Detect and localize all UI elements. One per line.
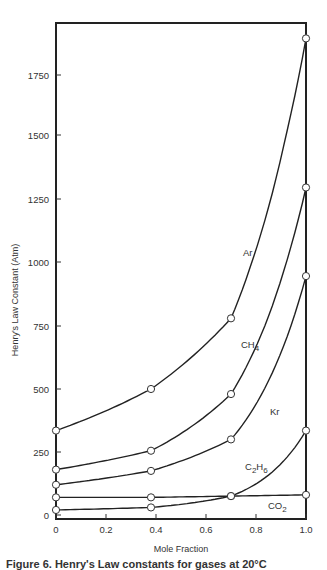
y-tick-label: 500 (33, 384, 49, 395)
curve-ch4 (56, 188, 306, 470)
data-point-ar (52, 427, 59, 434)
series-points (52, 35, 309, 514)
series-labels: ArCH4KrC2H6CO2 (241, 247, 287, 514)
x-axis-title: Mole Fraction (154, 544, 209, 554)
data-point-kr (52, 481, 59, 488)
curve-ar (56, 38, 306, 430)
x-tick-label: 0.8 (249, 524, 262, 535)
data-point-ch4 (302, 184, 309, 191)
curve-kr (56, 276, 306, 485)
data-point-co2 (227, 493, 234, 500)
data-point-c2h6 (302, 427, 309, 434)
y-tick-label: 0 (44, 510, 49, 521)
y-tick-label: 1250 (28, 194, 49, 205)
x-axis-ticks: 00.20.40.60.81.0 (53, 514, 312, 535)
data-point-co2 (302, 491, 309, 498)
data-point-kr (147, 467, 154, 474)
series-label-kr: Kr (270, 406, 280, 417)
series-curves (56, 38, 306, 510)
data-point-co2 (147, 494, 154, 501)
series-label-ar: Ar (243, 247, 253, 258)
series-label-co2: CO2 (268, 500, 287, 514)
x-tick-label: 0.6 (199, 524, 212, 535)
x-tick-label: 0.2 (99, 524, 112, 535)
y-tick-label: 1000 (28, 257, 49, 268)
y-tick-label: 1750 (28, 70, 49, 81)
data-point-ar (302, 35, 309, 42)
x-tick-label: 0.4 (149, 524, 162, 535)
data-point-ch4 (227, 390, 234, 397)
data-point-c2h6 (52, 506, 59, 513)
curve-co2 (56, 495, 306, 498)
plot-border (56, 23, 306, 519)
y-tick-label: 250 (33, 447, 49, 458)
data-point-ar (147, 385, 154, 392)
y-tick-label: 1500 (28, 130, 49, 141)
data-point-ch4 (52, 466, 59, 473)
data-point-co2 (52, 494, 59, 501)
figure-caption: Figure 6. Henry's Law constants for gase… (6, 558, 267, 570)
series-label-c2h6: C2H6 (245, 461, 268, 475)
data-point-ch4 (147, 447, 154, 454)
y-tick-label: 750 (33, 321, 49, 332)
data-point-ar (227, 315, 234, 322)
y-axis-title: Henry's Law Constant (Atm) (10, 244, 20, 356)
data-point-c2h6 (147, 504, 154, 511)
series-label-ch4: CH4 (241, 339, 260, 353)
plot-frame (56, 23, 306, 519)
data-point-kr (227, 436, 234, 443)
data-point-kr (302, 272, 309, 279)
x-tick-label: 1.0 (299, 524, 312, 535)
x-tick-label: 0 (53, 524, 58, 535)
